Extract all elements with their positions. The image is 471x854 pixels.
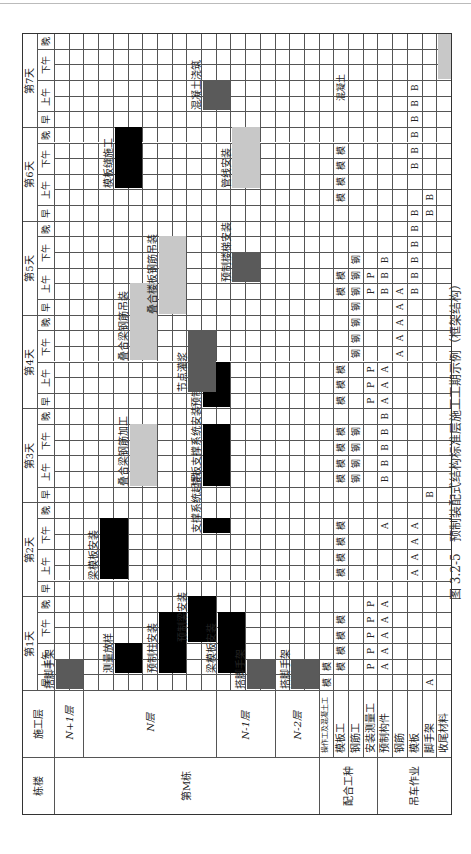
table-frame: [22, 33, 452, 815]
figure-title: 预制装配式结构标准层施工工期示例（框架结构）: [449, 278, 463, 542]
schedule-table: 栋楼施工层第1天早上午下午晚第2天早上午下午晚第3天早上午下午晚第4天早上午下午…: [22, 33, 452, 815]
page-top-rule: [0, 3, 471, 4]
figure-number: 图 3.2-5: [449, 553, 463, 600]
figure-caption: 图 3.2-5 预制装配式结构标准层施工工期示例（框架结构）: [446, 220, 463, 600]
